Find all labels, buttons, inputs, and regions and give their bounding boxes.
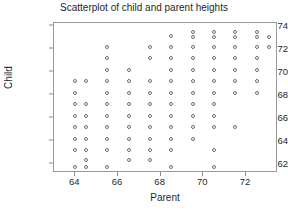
data-point xyxy=(105,79,109,83)
data-point xyxy=(169,91,173,95)
data-point xyxy=(191,68,195,72)
data-point xyxy=(212,148,216,152)
x-tick-mark xyxy=(202,172,203,176)
data-point xyxy=(191,114,195,118)
data-point xyxy=(212,125,216,129)
data-point xyxy=(255,68,259,72)
data-point xyxy=(255,30,259,34)
data-point xyxy=(233,125,237,129)
data-point xyxy=(105,165,109,169)
data-point xyxy=(105,68,109,72)
data-point xyxy=(84,125,88,129)
scatterplot-figure: Scatterplot of child and parent heights … xyxy=(0,0,288,215)
data-point xyxy=(105,56,109,60)
data-point xyxy=(191,56,195,60)
data-point xyxy=(84,114,88,118)
data-point xyxy=(105,148,109,152)
data-point xyxy=(105,102,109,106)
data-point xyxy=(73,91,77,95)
data-point xyxy=(73,165,77,169)
data-point xyxy=(169,137,173,141)
data-point xyxy=(84,148,88,152)
data-point xyxy=(233,91,237,95)
data-point xyxy=(73,102,77,106)
data-point xyxy=(191,79,195,83)
data-point xyxy=(148,102,152,106)
y-axis-label: Child xyxy=(3,48,14,108)
data-point xyxy=(169,79,173,83)
data-point xyxy=(212,114,216,118)
data-point xyxy=(212,165,216,169)
data-point xyxy=(127,137,131,141)
data-point xyxy=(233,68,237,72)
data-point xyxy=(127,148,131,152)
data-point xyxy=(169,102,173,106)
data-point xyxy=(169,68,173,72)
data-point xyxy=(255,79,259,83)
data-point xyxy=(105,137,109,141)
data-point xyxy=(84,165,88,169)
data-point xyxy=(233,56,237,60)
x-tick-label: 72 xyxy=(230,176,260,187)
x-tick-label: 64 xyxy=(59,176,89,187)
data-point xyxy=(191,45,195,49)
data-points-layer xyxy=(54,23,276,171)
data-point xyxy=(105,114,109,118)
data-point xyxy=(191,125,195,129)
data-point xyxy=(105,45,109,49)
x-tick-mark xyxy=(74,172,75,176)
data-point xyxy=(191,137,195,141)
data-point xyxy=(127,91,131,95)
data-point xyxy=(84,158,88,162)
x-tick-label: 68 xyxy=(145,176,175,187)
data-point xyxy=(127,102,131,106)
x-tick-label: 70 xyxy=(187,176,217,187)
data-point xyxy=(255,91,259,95)
data-point xyxy=(212,91,216,95)
data-point xyxy=(148,91,152,95)
data-point xyxy=(191,30,195,34)
data-point xyxy=(169,148,173,152)
data-point xyxy=(127,68,131,72)
plot-area xyxy=(53,22,277,172)
data-point xyxy=(148,114,152,118)
data-point xyxy=(169,45,173,49)
data-point xyxy=(73,148,77,152)
data-point xyxy=(84,79,88,83)
x-tick-mark xyxy=(160,172,161,176)
data-point xyxy=(212,79,216,83)
data-point xyxy=(169,34,173,38)
data-point xyxy=(212,68,216,72)
x-tick-label: 66 xyxy=(102,176,132,187)
data-point xyxy=(148,56,152,60)
data-point xyxy=(148,79,152,83)
data-point xyxy=(169,165,173,169)
data-point xyxy=(212,35,216,39)
data-point xyxy=(255,35,259,39)
x-axis-label: Parent xyxy=(53,192,277,203)
data-point xyxy=(212,45,216,49)
data-point xyxy=(73,114,77,118)
data-point xyxy=(255,56,259,60)
data-point xyxy=(191,35,195,39)
data-point xyxy=(233,45,237,49)
data-point xyxy=(255,45,259,49)
data-point xyxy=(212,102,216,106)
data-point xyxy=(148,158,152,162)
data-point xyxy=(148,137,152,141)
data-point xyxy=(169,56,173,60)
data-point xyxy=(233,79,237,83)
data-point xyxy=(148,148,152,152)
data-point xyxy=(127,158,131,162)
data-point xyxy=(212,56,216,60)
data-point xyxy=(73,125,77,129)
x-tick-mark xyxy=(245,172,246,176)
data-point xyxy=(169,125,173,129)
data-point xyxy=(169,114,173,118)
data-point xyxy=(84,102,88,106)
data-point xyxy=(127,125,131,129)
data-point xyxy=(127,79,131,83)
data-point xyxy=(105,125,109,129)
data-point xyxy=(148,45,152,49)
data-point xyxy=(73,137,77,141)
